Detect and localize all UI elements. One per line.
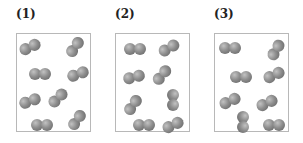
label-panel-1: (1) [16, 7, 36, 21]
atom-icon [237, 121, 249, 133]
panel-3-box [214, 33, 289, 132]
panel-2-box [115, 33, 190, 132]
label-panel-2: (2) [115, 7, 135, 21]
panel-1-box [16, 33, 91, 132]
atom-icon [41, 119, 53, 131]
label-panel-3: (3) [214, 7, 234, 21]
atom-icon [143, 119, 155, 131]
atom-icon [229, 42, 241, 54]
atom-icon [167, 99, 179, 111]
atom-icon [134, 43, 146, 55]
atom-icon [240, 71, 252, 83]
atom-icon [39, 68, 51, 80]
atom-icon [273, 119, 285, 131]
